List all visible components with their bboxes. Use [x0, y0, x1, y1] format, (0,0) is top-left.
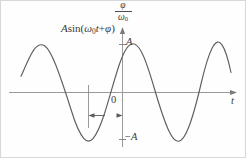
- phase-shift-arrow: [89, 113, 123, 117]
- amplitude-negative-label: −A: [124, 132, 138, 143]
- amplitude-positive-label: A: [126, 37, 132, 48]
- function-expression-label: Asin(ω0t+φ): [61, 23, 115, 35]
- expr-function: sin: [68, 22, 81, 34]
- sine-curve: [21, 42, 231, 141]
- expr-omega: ω: [84, 22, 92, 34]
- expr-close-paren: ): [111, 22, 115, 34]
- expr-amplitude: A: [61, 22, 68, 34]
- x-axis-label: t: [231, 96, 234, 107]
- origin-label: 0: [111, 95, 116, 106]
- sine-wave-figure: Asin(ω0t+φ) A −A 0 t φ ω0: [0, 0, 246, 158]
